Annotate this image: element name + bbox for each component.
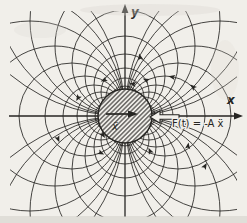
dipole-field-figure: y x ẍ F(t) = -A ẍ	[0, 0, 247, 223]
force-equation-label: F(t) = -A ẍ	[172, 118, 224, 129]
x-axis-arrow-icon	[234, 113, 243, 120]
acceleration-label: ẍ	[111, 121, 118, 132]
field-line-diagram: y x ẍ F(t) = -A ẍ	[0, 0, 247, 223]
flow-arrowhead-icon	[97, 149, 105, 157]
y-axis-label: y	[131, 5, 140, 19]
x-axis-label: x	[226, 93, 236, 107]
y-axis-arrow-icon	[122, 4, 129, 13]
central-body	[98, 89, 152, 143]
